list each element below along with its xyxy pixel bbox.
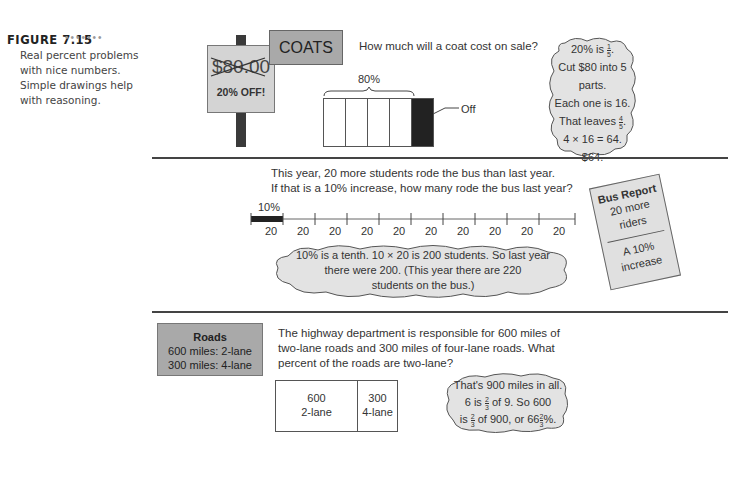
question-line: The highway department is responsible fo…	[278, 326, 560, 341]
segment-value: 20	[357, 225, 377, 237]
denominator: 3	[485, 404, 489, 411]
lane-value: 300	[358, 391, 397, 405]
numerator: 2	[485, 396, 489, 404]
fraction: 23	[471, 413, 475, 428]
segment-value: 20	[325, 225, 345, 237]
section-divider	[152, 311, 728, 313]
fraction: 45	[619, 115, 623, 130]
figure-caption: Real percent problems with nice numbers.…	[20, 48, 160, 108]
off-connector-icon	[433, 100, 463, 120]
cloud-line: Each one is 16.	[545, 94, 640, 112]
question-line: two-lane roads and 300 miles of four-lan…	[278, 341, 560, 356]
cloud-line: there were 200. (This year there are 220	[268, 263, 578, 278]
cloud-line: 10% is a tenth. 10 × 20 is 200 students.…	[268, 248, 578, 263]
roads-title: Roads	[158, 330, 262, 344]
bus-report-card: Bus Report 20 more riders A 10% increase	[589, 174, 681, 291]
figure-dots: •••••••	[65, 32, 104, 43]
discount-text: 20% OFF!	[208, 86, 274, 98]
lane-label: 4-lane	[358, 405, 397, 419]
lane-label: 2-lane	[276, 405, 357, 419]
fraction: 23	[485, 396, 489, 411]
coats-question: How much will a coat cost on sale?	[359, 40, 538, 52]
lane-value: 600	[276, 391, 357, 405]
cloud-line: That's 900 miles in all.	[443, 377, 573, 394]
brace-icon	[323, 86, 415, 98]
strike-icon	[209, 54, 269, 80]
cloud-text: of 900, or 66	[478, 413, 540, 425]
cloud-line: That leaves 45.	[545, 112, 640, 130]
two-lane-box: 600 2-lane	[275, 380, 358, 432]
cloud-text: 6 is	[465, 396, 482, 408]
caption-line: Simple drawings help	[20, 78, 160, 93]
caption-line: with reasoning.	[20, 93, 160, 108]
segment-value: 20	[453, 225, 473, 237]
caption-line: with nice numbers.	[20, 63, 160, 78]
numerator: 2	[471, 413, 475, 421]
question-line: percent of the roads are two-lane?	[278, 356, 560, 371]
denominator: 5	[619, 123, 623, 130]
roads-box: Roads 600 miles: 2-lane 300 miles: 4-lan…	[157, 323, 263, 376]
fraction: 15	[607, 43, 611, 58]
segment-value: 20	[517, 225, 537, 237]
coats-cloud-text: 20% is 15. Cut $80 into 5 parts. Each on…	[545, 40, 640, 166]
segment-value: 20	[261, 225, 281, 237]
cloud-text: of 9. So 600	[492, 396, 551, 408]
cloud-line: Cut $80 into 5 parts.	[545, 58, 640, 94]
cloud-line: is 23 of 900, or 6623%.	[443, 411, 573, 428]
denominator: 3	[471, 421, 475, 428]
coats-banner: COATS	[269, 30, 343, 65]
bar-part	[367, 98, 390, 147]
segment-value: 20	[421, 225, 441, 237]
cloud-text: %.	[543, 413, 556, 425]
roads-line: 600 miles: 2-lane	[158, 344, 262, 358]
off-label: Off	[461, 103, 475, 115]
crossed-price: $80.00	[212, 56, 270, 78]
bar-part	[389, 98, 412, 147]
cloud-line: 20% is 15.	[545, 40, 640, 58]
eighty-percent-label: 80%	[358, 73, 380, 85]
roads-cloud-text: That's 900 miles in all. 6 is 23 of 9. S…	[443, 377, 573, 428]
roads-question: The highway department is responsible fo…	[278, 326, 560, 371]
bar-part-off	[411, 98, 434, 147]
numerator: 1	[607, 43, 611, 51]
four-lane-box: 300 4-lane	[357, 380, 398, 432]
caption-line: Real percent problems	[20, 48, 160, 63]
cloud-text: is	[460, 413, 468, 425]
cloud-line: students on the bus.)	[268, 278, 578, 293]
bus-cloud-text: 10% is a tenth. 10 × 20 is 200 students.…	[268, 248, 578, 293]
cloud-line: 6 is 23 of 9. So 600	[443, 394, 573, 411]
section-divider	[152, 157, 728, 159]
segment-value: 20	[293, 225, 313, 237]
segment-value: 20	[485, 225, 505, 237]
cloud-text: That leaves	[559, 115, 616, 127]
bar-part	[323, 98, 346, 147]
cloud-text: 20% is	[571, 43, 604, 55]
bus-question-line1: This year, 20 more students rode the bus…	[271, 167, 555, 179]
bar-part	[345, 98, 368, 147]
roads-line: 300 miles: 4-lane	[158, 358, 262, 372]
cloud-line: 4 × 16 = 64.	[545, 130, 640, 148]
segment-value: 20	[549, 225, 569, 237]
segment-value: 20	[389, 225, 409, 237]
numerator: 4	[619, 115, 623, 123]
denominator: 5	[607, 51, 611, 58]
sale-sign: $80.00 20% OFF!	[207, 45, 275, 113]
bus-question-line2: If that is a 10% increase, how many rode…	[271, 182, 573, 194]
